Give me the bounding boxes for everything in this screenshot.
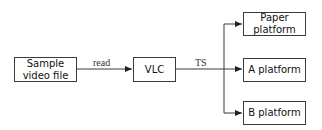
- a-platform-node: A platform: [243, 58, 306, 82]
- b-platform-label: B platform: [248, 107, 301, 119]
- a-platform-label: A platform: [248, 64, 301, 76]
- sample-video-file-label: Sample video file: [15, 58, 76, 82]
- b-platform-node: B platform: [243, 101, 306, 125]
- vlc-node: VLC: [133, 57, 176, 82]
- vlc-label: VLC: [145, 64, 164, 76]
- paper-platform-node: Paper platform: [243, 12, 306, 36]
- sample-video-file-node: Sample video file: [14, 57, 77, 82]
- paper-platform-label: Paper platform: [244, 12, 305, 36]
- ts-edge-label: TS: [195, 57, 207, 68]
- read-edge-label: read: [93, 57, 110, 68]
